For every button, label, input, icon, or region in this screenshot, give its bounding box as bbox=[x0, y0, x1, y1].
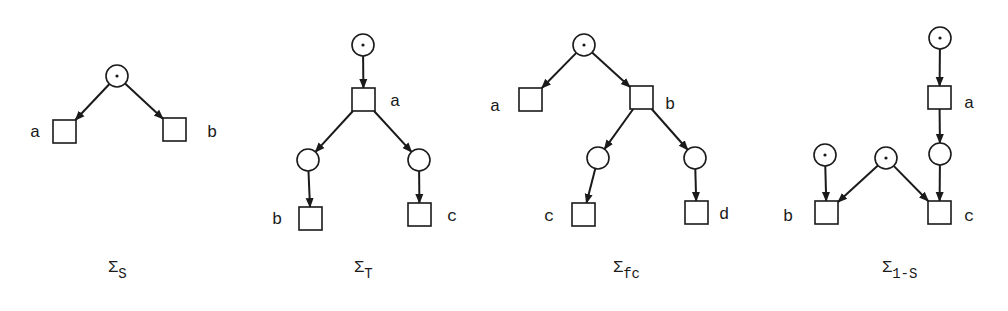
transition-c bbox=[928, 201, 951, 224]
arc-b-to-p2 bbox=[652, 109, 688, 150]
net-caption: Σfc bbox=[613, 258, 640, 282]
transition-label: c bbox=[544, 207, 554, 226]
token-dot bbox=[884, 156, 887, 159]
net-sigma-fc: abcdΣfc bbox=[490, 34, 729, 282]
arc-p2-to-d bbox=[695, 169, 696, 201]
token-dot bbox=[361, 43, 364, 46]
arc-p3-to-b bbox=[838, 165, 878, 202]
transition-label: b bbox=[207, 123, 217, 142]
transition-label: b bbox=[665, 95, 675, 114]
transition-b bbox=[299, 207, 322, 230]
token-dot bbox=[115, 74, 118, 77]
transition-b bbox=[163, 118, 186, 141]
arc-p0-to-a bbox=[75, 84, 109, 120]
arc-p1-to-b bbox=[308, 171, 310, 207]
place bbox=[297, 149, 319, 171]
arc-p0-to-b bbox=[125, 83, 163, 118]
transition-label: a bbox=[390, 92, 400, 111]
transition-b bbox=[815, 201, 838, 224]
transition-label: b bbox=[272, 210, 282, 229]
arc-a-to-p1 bbox=[315, 111, 353, 152]
net-sigma-1s: abcΣ1-S bbox=[783, 27, 974, 282]
net-caption: ΣT bbox=[354, 258, 373, 282]
arc-p2-to-b bbox=[825, 166, 826, 201]
arc-p0-to-a bbox=[542, 53, 577, 88]
transition-d bbox=[685, 201, 708, 224]
transition-label: d bbox=[719, 205, 729, 224]
transition-label: b bbox=[783, 207, 793, 226]
arc-p1-to-c bbox=[586, 169, 595, 203]
token-dot bbox=[938, 36, 941, 39]
net-sigma-t: abcΣT bbox=[272, 34, 457, 282]
arc-p3-to-c bbox=[894, 166, 929, 201]
token-dot bbox=[823, 153, 826, 156]
transition-a bbox=[53, 120, 76, 143]
transition-a bbox=[352, 88, 375, 111]
net-sigma-s: abΣS bbox=[30, 65, 217, 282]
token-dot bbox=[582, 43, 585, 46]
transition-a bbox=[519, 88, 542, 111]
net-caption: ΣS bbox=[108, 258, 127, 282]
place bbox=[587, 147, 609, 169]
petri-net-figure: abΣSabcΣTabcdΣfcabcΣ1-S bbox=[0, 0, 1008, 311]
arc-p0-to-b bbox=[592, 52, 630, 87]
transition-c bbox=[408, 203, 431, 226]
transition-label: a bbox=[490, 97, 500, 116]
transition-label: a bbox=[964, 94, 974, 113]
arc-b-to-p1 bbox=[604, 109, 633, 149]
transition-label: c bbox=[447, 207, 457, 226]
transition-label: a bbox=[30, 123, 40, 142]
place bbox=[408, 149, 430, 171]
net-caption: Σ1-S bbox=[882, 258, 917, 282]
transition-b bbox=[630, 86, 653, 109]
transition-a bbox=[928, 86, 951, 109]
place bbox=[929, 143, 951, 165]
place bbox=[684, 147, 706, 169]
transition-c bbox=[572, 203, 595, 226]
transition-label: c bbox=[964, 207, 974, 226]
arc-a-to-p2 bbox=[374, 111, 412, 152]
